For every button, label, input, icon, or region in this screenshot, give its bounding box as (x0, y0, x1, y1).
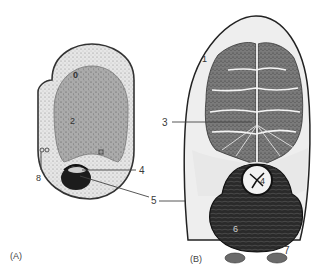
label-0: 0 (73, 70, 78, 80)
label-5: 5 (151, 195, 157, 206)
nodule-7-left (225, 253, 245, 263)
label-7: 7 (284, 245, 290, 256)
label-8: 8 (36, 173, 41, 183)
panel-label-a: (A) (10, 251, 22, 261)
label-4-b: 4 (260, 176, 265, 186)
panel-label-b: (B) (190, 254, 202, 264)
label-6: 6 (233, 224, 238, 234)
label-4-a: 4 (139, 165, 145, 176)
core-region-2 (54, 66, 128, 162)
panel-a-illustration (38, 44, 134, 199)
label-1: 1 (202, 54, 207, 64)
label-2: 2 (70, 116, 75, 126)
label-3: 3 (162, 117, 168, 128)
diagram-canvas: 0 2 8 4 5 (A) (0, 0, 322, 271)
